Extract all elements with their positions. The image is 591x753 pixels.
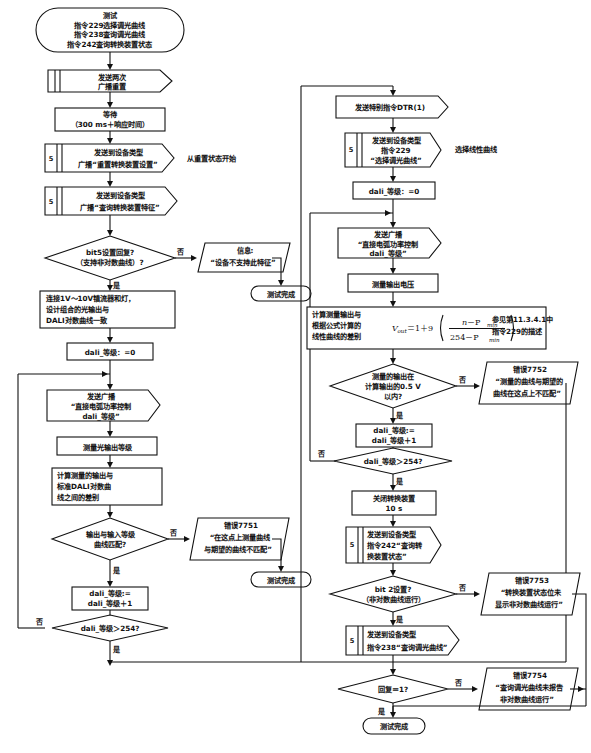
marker-5: 5 <box>49 198 54 206</box>
node-error-7753: 错误7753 “转换装置状态位未 显示非对数曲线运行” <box>481 573 580 615</box>
label-yes-within05v: 是 <box>395 411 404 420</box>
node-measure-light-output: 测量光输出等级 <box>57 437 157 455</box>
within05v-line1: 测量的输出在 <box>372 372 414 381</box>
complete2-label: 测试完成 <box>267 576 296 585</box>
right-arc-line3: dali_等级” <box>369 249 406 258</box>
arrow <box>107 384 113 390</box>
curve-match-line1: 输出与输入等级 <box>86 530 136 539</box>
arrow <box>191 255 197 261</box>
marker-5: 5 <box>350 637 355 645</box>
err7752-line3: 曲线在这点上不匹配” <box>493 389 561 398</box>
left-arc-line2: “直接电弧功率控制 <box>71 402 132 411</box>
formula-lhs-sub: out <box>398 328 408 334</box>
arrow <box>390 127 396 133</box>
measure-light-label: 测量光输出等级 <box>83 443 133 452</box>
info-line1: 信息: <box>237 246 254 255</box>
node-send-cmd-229: 5 发送到设备类型 指令229 “选择调光曲线” <box>345 133 441 167</box>
right-level0-label: dali_等级：=0 <box>369 187 420 196</box>
label-no-bit5: 否 <box>176 248 184 256</box>
arrow <box>107 581 113 587</box>
arrow <box>474 383 480 389</box>
err7752-line1: 错误7752 <box>513 365 547 374</box>
formula-num-b: －P <box>467 318 481 327</box>
arrow <box>390 268 396 274</box>
start-line4: 指令242查询转换装置状态 <box>67 40 153 49</box>
label-no-bit2: 否 <box>458 584 466 592</box>
reset-conv-line1: 发送到设备类型 <box>93 148 143 157</box>
flowchart-canvas: 测试 指令229选择调光曲线 指令238查询调光曲线 指令242查询转换装置状态… <box>0 0 591 753</box>
formula-eq: ＝1＋9 <box>407 324 433 333</box>
arrow <box>390 176 396 182</box>
node-send-dtr: 发送特别指令DTR(1) <box>336 96 448 118</box>
err7753-line3: 显示非对数曲线运行” <box>495 600 563 609</box>
left-inc-line2: dali_等级＋1 <box>88 599 133 608</box>
right-inc-line2: dali_等级＋1 <box>372 436 417 445</box>
arrow <box>107 138 113 144</box>
send-reset-line2: 广播重置 <box>98 82 126 91</box>
arrow <box>390 358 396 364</box>
node-send-cmd-242: 5 发送到设备类型 指令242“查询转 换装置状态” <box>346 527 441 563</box>
arrow <box>107 660 113 666</box>
arrow <box>390 222 396 228</box>
arrow <box>107 102 113 108</box>
err7754-line1: 错误7754 <box>513 671 547 680</box>
start-line3: 指令238查询调光曲线 <box>74 30 146 39</box>
ballast-line2: 设计组合的光输出与 <box>46 305 109 314</box>
measure-voltage-label: 测量输出电压 <box>372 280 415 289</box>
node-test-complete-2: 测试完成 <box>251 572 311 587</box>
marker-5: 5 <box>350 541 355 549</box>
label-yes-gt254-right: 是 <box>395 477 404 486</box>
arrow <box>474 591 480 597</box>
node-right-increment: dali_等级:= dali_等级＋1 <box>356 424 432 447</box>
note-reference-line2: 指令229的描述 <box>492 327 543 336</box>
node-broadcast-query-feature: 5 发送到设备类型 广播“查询转换装置特征” <box>45 187 177 215</box>
arrow <box>390 485 396 491</box>
marker-5: 5 <box>349 146 354 154</box>
ballast-line1: 连接1V～10V镇流器和灯， <box>46 294 135 303</box>
arrow <box>102 371 108 377</box>
wait-line1: 等待 <box>102 110 118 119</box>
arrow <box>107 64 113 70</box>
curve-match-line2: 曲线匹配? <box>94 540 126 549</box>
reset-conv-line2: 广播“重置转换装置设置” <box>78 160 157 169</box>
arrow <box>278 566 284 572</box>
err7754-line3: 非对数曲线运行” <box>500 695 554 704</box>
node-decision-bit2: bit 2设置? （非对数曲线运行） <box>330 576 456 612</box>
node-turn-off-converter: 关闭转换装置 10 s <box>352 491 436 515</box>
marker-5: 5 <box>49 155 54 163</box>
node-decision-within-05v: 测量的输出在 计算输出的0.5 V 以内? <box>330 364 456 408</box>
arrow <box>107 462 113 468</box>
cmd238-line1: 发送到设备类型 <box>366 630 416 639</box>
label-no-gt254-right: 否 <box>317 450 325 458</box>
reply1-label: 回复＝1? <box>378 685 408 694</box>
arrow <box>472 686 478 692</box>
node-error-7752: 错误7752 “测量的曲线与期望的 曲线在这点上不匹配” <box>479 362 578 404</box>
cmd229-line3: “选择调光曲线” <box>370 156 421 165</box>
arrow <box>385 210 391 216</box>
label-no-match: 否 <box>169 529 177 537</box>
formula-den-sub: min <box>489 337 500 343</box>
cmd238-line2: 指令238“查询调光曲线” <box>367 643 447 652</box>
err7751-line1: 错误7751 <box>224 521 258 530</box>
within05v-line3: 以内? <box>384 392 402 401</box>
query-feature-line2: 广播“查询转换装置特征” <box>80 203 159 212</box>
arrow <box>107 337 113 343</box>
right-gt254-label: dali_等级＞254? <box>364 457 423 466</box>
node-decision-curve-match: 输出与输入等级 曲线匹配? <box>52 518 168 560</box>
turnoff-line1: 关闭转换装置 <box>373 494 415 503</box>
arrow <box>390 301 396 307</box>
node-decision-reply-1: 回复＝1? <box>338 675 448 703</box>
err7753-line2: “转换装置状态位未 <box>501 588 563 597</box>
left-inc-line1: dali_等级:= <box>89 589 130 598</box>
note-reference-line1: 参见第11.3.4.1中 <box>491 315 553 324</box>
node-connect-ballast: 连接1V～10V镇流器和灯， 设计组合的光输出与 DALI对数曲线一致 <box>40 291 175 328</box>
err7751-line2: “在这点上测量曲线 <box>210 533 272 542</box>
within05v-line2: 计算输出的0.5 V <box>365 382 421 391</box>
info-line2: “设备不支持此特征” <box>210 258 275 267</box>
left-arc-line3: dali_等级” <box>82 412 119 421</box>
node-test-complete-1: 测试完成 <box>251 286 311 301</box>
node-right-broadcast-arc-power: 发送广播 “直接电弧功率控制 dali_等级” <box>338 228 441 258</box>
node-broadcast-reset-converter: 5 发送到设备类型 广播“重置转换装置设置” <box>45 144 174 172</box>
node-send-cmd-238: 5 发送到设备类型 指令238“查询调光曲线” <box>346 626 459 655</box>
node-left-broadcast-arc-power: 发送广播 “直接电弧功率控制 dali_等级” <box>47 390 160 421</box>
